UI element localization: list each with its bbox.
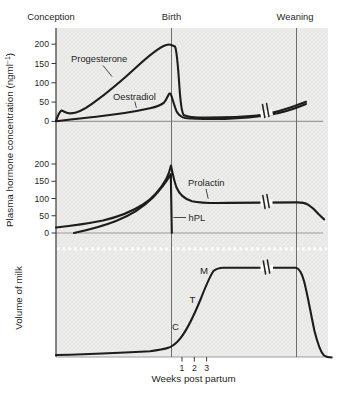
plot-background-texture: [56, 28, 328, 357]
week-3-label: 3: [204, 363, 209, 373]
milk-axis-label: Volume of milk: [13, 266, 24, 330]
milk-stage-t-label: T: [190, 294, 196, 305]
milk-stage-c-label: C: [172, 321, 179, 332]
tick-label-150: 150: [35, 59, 50, 69]
hormone-axis-label-end: ): [4, 53, 15, 56]
tick-label-0: 0: [44, 116, 49, 126]
middle-panel-y-axis: 200 150 100 50 0: [35, 159, 57, 238]
weaning-label: Weaning: [277, 11, 314, 22]
conception-label: Conception: [27, 11, 74, 22]
tick-label-100: 100: [35, 194, 50, 204]
week-2-label: 2: [192, 363, 197, 373]
progesterone-curve-label: Progesterone: [71, 53, 127, 64]
hpl-curve-label: hPL: [189, 212, 206, 223]
hormone-milk-chart-svg: Conception Birth Weaning Plasma hormone …: [0, 0, 340, 396]
tick-label-200: 200: [35, 39, 50, 49]
hormone-axis-label-main: Plasma hormone concentration (ngml: [4, 64, 15, 227]
milk-stage-m-label: M: [200, 265, 208, 276]
oestradiol-curve-label: Oestradiol: [113, 91, 156, 102]
prolactin-curve-label: Prolactin: [188, 177, 224, 188]
week-1-label: 1: [180, 363, 185, 373]
tick-label-200: 200: [35, 159, 50, 169]
weeks-post-partum-axis: 1 2 3 Weeks post partum: [151, 357, 235, 384]
tick-label-50: 50: [39, 211, 49, 221]
top-panel-y-axis: 200 150 100 50 0: [35, 39, 57, 126]
birth-label: Birth: [162, 11, 181, 22]
tick-label-0: 0: [44, 228, 49, 238]
pregnancy-lactation-hormone-figure: Conception Birth Weaning Plasma hormone …: [0, 0, 340, 396]
break-gap: [261, 112, 273, 114]
tick-label-100: 100: [35, 78, 50, 88]
x-axis-label: Weeks post partum: [151, 373, 235, 384]
tick-label-150: 150: [35, 176, 50, 186]
tick-label-50: 50: [39, 97, 49, 107]
hormone-axis-label: Plasma hormone concentration (ngml−1): [4, 53, 15, 227]
